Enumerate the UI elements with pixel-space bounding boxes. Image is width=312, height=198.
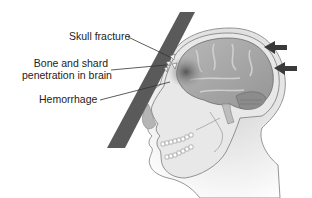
hemorrhage-area [168,56,204,88]
label-bone-shard-line1: Bone and shard [22,57,108,69]
label-bone-shard-line2: penetration in brain [22,69,108,81]
label-skull-fracture: Skull fracture [69,30,130,42]
label-hemorrhage: Hemorrhage [39,93,97,105]
label-bone-shard: Bone and shard penetration in brain [22,57,108,81]
